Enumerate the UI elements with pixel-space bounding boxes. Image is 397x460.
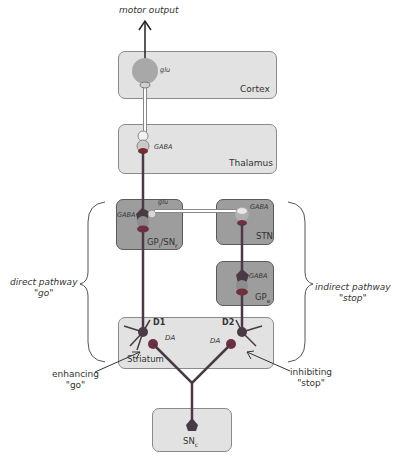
- gpe-transmitter: GABA: [249, 272, 267, 280]
- gpi-snr-label: GPi/SNr: [147, 237, 177, 249]
- stn-transmitter: GABA: [250, 203, 268, 211]
- cortex-transmitter: glu: [160, 66, 170, 74]
- direct-brace-icon: [80, 202, 105, 362]
- snc-label: SNc: [183, 436, 198, 448]
- motor-output-label: motor output: [119, 5, 179, 15]
- striatum-label: Striatum: [127, 354, 164, 364]
- gpi-transmitter-left: GABA: [117, 211, 135, 219]
- stn-label: STN: [256, 231, 273, 241]
- da-left-label: DA: [165, 334, 175, 342]
- gpi-transmitter-top: glu: [158, 198, 168, 206]
- d1-label: D1: [153, 318, 165, 327]
- snc-neuron-icon: [186, 418, 198, 431]
- pathway-diagram: [0, 0, 397, 460]
- da-right-label: DA: [210, 337, 220, 345]
- indirect-brace-icon: [288, 202, 313, 362]
- cortex-label: Cortex: [240, 84, 270, 94]
- d2-label: D2: [222, 318, 234, 327]
- gpe-label: GPe: [255, 292, 270, 304]
- thalamus-label: Thalamus: [229, 158, 273, 168]
- thalamus-transmitter: GABA: [154, 143, 172, 151]
- direct-pathway-label: direct pathway"go": [10, 277, 77, 299]
- enhancing-label: enhancing"go": [52, 369, 99, 391]
- indirect-pathway-label: indirect pathway"stop": [315, 282, 391, 304]
- inhibiting-label: inhibiting"stop": [290, 367, 332, 389]
- cortex-neuron-icon: [132, 58, 158, 84]
